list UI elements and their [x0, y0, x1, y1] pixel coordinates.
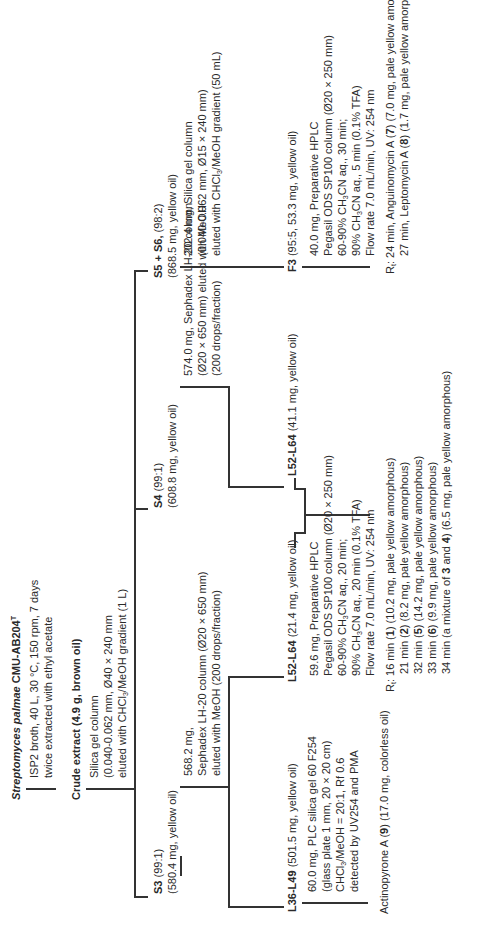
l5264b-amount: (41.1 mg, yellow oil): [286, 334, 298, 432]
f3-name: F3: [286, 259, 298, 272]
connector-s4: [134, 508, 148, 510]
s56-method-1: 202.4 mg, Silica gel column: [182, 121, 196, 256]
s3-name: S3: [152, 881, 164, 894]
connector-s3-bar: [228, 786, 230, 908]
s56-node: S5 + S6, (98:2): [152, 204, 166, 278]
crude-method-3: eluted with CHCl3/MeOH gradient (1 L): [116, 589, 130, 778]
hplc2-product-1: Rt: 24 min, Anguinomycin A (7) (7.0 mg, …: [384, 0, 398, 274]
s3-method-3: eluted with MeOH (200 drops/fraction): [210, 590, 224, 776]
l3649-method-3: CHCl3/MeOH = 20:1, Rf 0.6: [334, 758, 348, 892]
connector-level1-bar: [134, 270, 136, 898]
crude-extract-label: Crude extract (4.9 g, brown oil): [70, 639, 84, 800]
s56-method-2: (0.040-0.062 mm, Ø15 × 240 mm): [196, 89, 210, 256]
connector-l5264b: [228, 486, 284, 488]
product-actinopyrone-a: Actinopyrone A (9) (17.0 mg, colorless o…: [378, 710, 392, 914]
l5264b-name: L52-L64: [286, 434, 298, 476]
strain-id: CMU-AB204: [10, 620, 22, 683]
connector-f3-down: [302, 266, 370, 268]
s3-method-2: Sephadex LH-20 column (Ø20 × 650 mm): [196, 571, 210, 776]
hplc1-method-1: 59.6 mg, Preparative HPLC: [308, 541, 322, 676]
connector-s3: [134, 896, 148, 898]
s4-name: S4: [152, 495, 164, 508]
hplc2-product-2: 27 min, Leptomycin A (8) (1.7 mg, pale y…: [398, 0, 412, 256]
hplc2-method-2: Pegasil ODS SP100 column (Ø20 × 250 mm): [322, 35, 336, 256]
l5264a-name: L52-L64: [286, 640, 298, 682]
f3-node: F3 (95:5, 53.3 mg, yellow oil): [286, 131, 300, 272]
connector-merge-left: [294, 534, 296, 548]
l3649-method-2: (glass plate 1 mm, 20 × 20 cm): [320, 741, 334, 892]
connector-merge-bar: [304, 488, 306, 534]
f3-amount: (95:5, 53.3 mg, yellow oil): [286, 131, 298, 256]
organism-name: Streptomyces palmae: [10, 686, 22, 800]
s56-name: S5 + S6,: [152, 235, 164, 278]
connector-s4-down: [180, 386, 228, 388]
hplc2-method-5: Flow rate 7.0 mL/min, UV: 254 nm: [364, 90, 378, 257]
l3649-amount: (501.5 mg, yellow oil): [286, 763, 298, 867]
connector-l3649: [228, 906, 284, 908]
s3-amount: (580.4 mg, yellow oil): [166, 790, 180, 894]
s3-method-1: 568.2 mg,: [182, 727, 196, 776]
connector-crude: [86, 788, 134, 790]
connector-s3-bar-right: [228, 676, 230, 788]
l3649-method-4: detected by UV254 and PMA: [348, 750, 362, 892]
connector-l3649-down: [302, 902, 368, 904]
hplc2-method-1: 40.0 mg, Preparative HPLC: [308, 121, 322, 256]
strain-sup: T: [10, 616, 17, 620]
hplc1-product-1: Rt: 16 min (1) (10.2 mg, pale yellow amo…: [384, 458, 398, 692]
s4-method-3: (200 drops/fraction): [210, 281, 224, 376]
connector-s4-bar: [228, 386, 230, 488]
connector-l5264a: [228, 676, 284, 678]
hplc2-method-4: 90% CH3CN aq., 5 min (0.1% TFA): [350, 85, 364, 256]
s3-node: S3 (99:1): [152, 849, 166, 894]
crude-method-1: Silica gel column: [88, 695, 102, 778]
hplc1-product-5: 34 min (a mixture of 3 and 4) (6.5 mg, p…: [440, 371, 454, 674]
l5264b-node: L52-L64 (41.1 mg, yellow oil): [286, 334, 300, 476]
root-organism-title: Streptomyces palmae CMU-AB204T: [10, 616, 24, 800]
connector-s3-stub: [180, 856, 182, 876]
l5264a-node: L52-L64 (21.4 mg, yellow oil): [286, 540, 300, 682]
s56-ratio: (98:2): [152, 204, 164, 233]
hplc1-product-4: 33 min (6) (9.9 mg, pale yellow amorphou…: [426, 462, 440, 674]
connector-s56: [134, 270, 148, 272]
hplc1-method-4: 90% CH3CN aq., 20 min (0.1% TFA): [350, 499, 364, 676]
connector-f3-up: [270, 266, 284, 268]
connector-root: [26, 788, 56, 790]
s4-ratio: (99:1): [152, 463, 164, 492]
s4-amount: (608.8 mg, yellow oil): [166, 404, 180, 508]
s56-amount: (868.5 mg, yellow oil): [166, 174, 180, 278]
flowchart-isolation-scheme: Streptomyces palmae CMU-AB204T ISP2 brot…: [0, 0, 497, 928]
culture-line-1: ISP2 broth, 40 L, 30 °C, 150 rpm, 7 days: [28, 580, 42, 778]
s3-ratio: (99:1): [152, 849, 164, 878]
hplc2-method-3: 60-90% CH3CN aq., 30 min;: [336, 119, 350, 256]
hplc1-product-2: 21 min (2) (8.2 mg, pale yellow amorphou…: [398, 462, 412, 674]
hplc1-method-3: 60-90% CH3CN aq., 20 min;: [336, 539, 350, 676]
connector-s56-down: [180, 266, 270, 268]
l3649-node: L36-L49 (501.5 mg, yellow oil): [286, 763, 300, 912]
s4-node: S4 (99:1): [152, 463, 166, 508]
s56-method-3: eluted with CHCl3/MeOH gradient (50 mL): [210, 52, 224, 256]
l3649-name: L36-L49: [286, 870, 298, 912]
culture-line-2: twice extracted with ethyl acetate: [42, 617, 56, 778]
hplc1-method-2: Pegasil ODS SP100 column (Ø20 × 250 mm): [322, 455, 336, 676]
hplc1-product-3: 32 min (5) (14.2 mg, pale yellow amorpho…: [412, 456, 426, 674]
hplc1-method-5: Flow rate 7.0 mL/min, UV: 254 nm: [364, 510, 378, 677]
l5264a-amount: (21.4 mg, yellow oil): [286, 540, 298, 638]
connector-s3-down: [180, 786, 228, 788]
crude-method-2: (0.040-0.062 mm, Ø40 × 240 mm: [102, 615, 116, 778]
l3649-method-1: 60.0 mg, PLC silica gel 60 F254: [306, 736, 320, 892]
